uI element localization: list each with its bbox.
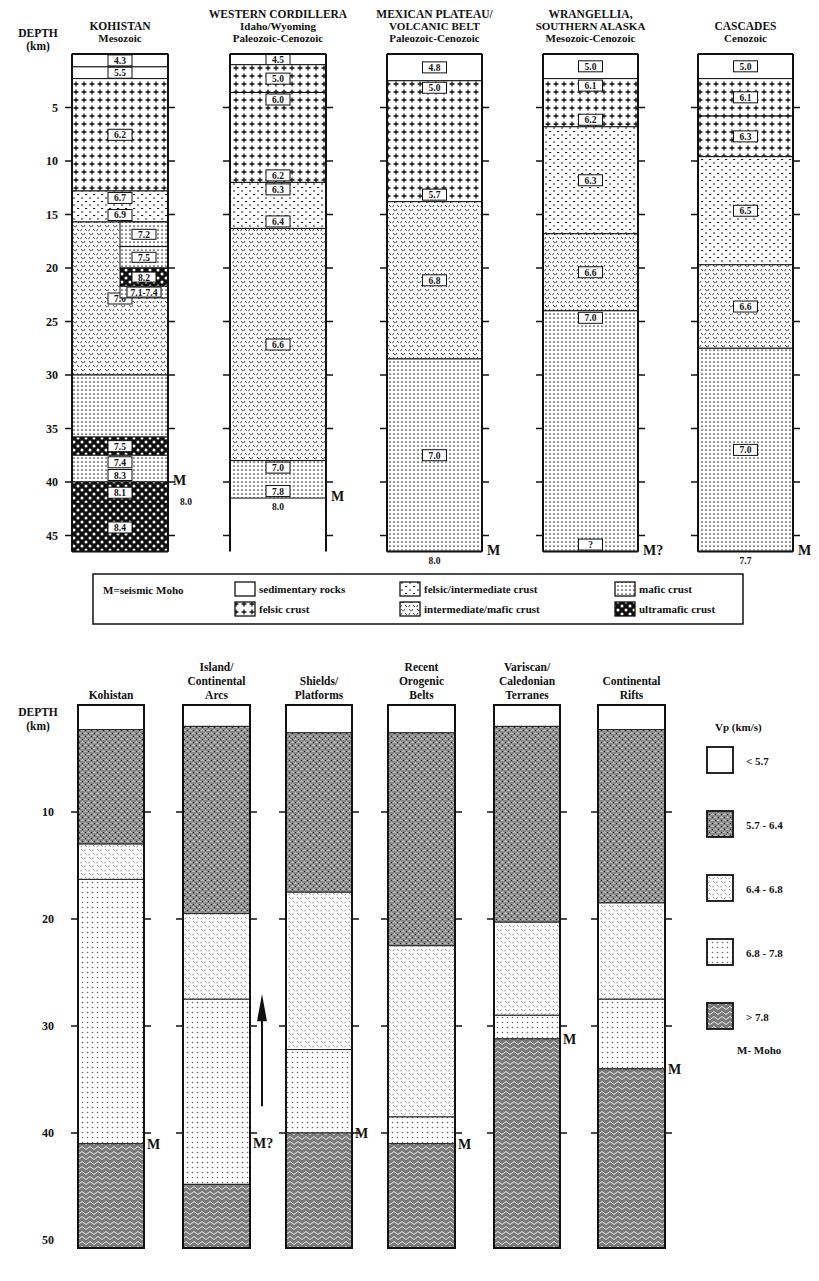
section-column-kohistan: KOHISTANMesozoic4.35.56.26.76.97.07.57.4… bbox=[65, 20, 192, 552]
depth-tick-label: 20 bbox=[46, 261, 58, 275]
moho-marker: M bbox=[487, 543, 500, 558]
depth-axis-unit: (km) bbox=[26, 40, 50, 53]
layer-vp-6.8-7.8 bbox=[286, 1050, 352, 1133]
mantle-velocity: 7.7 bbox=[740, 556, 752, 566]
velocity-value: 6.3 bbox=[272, 185, 284, 195]
moho-marker: M? bbox=[253, 1136, 273, 1151]
legend-label: ultramafic crust bbox=[639, 603, 715, 615]
velocity-value: 6.0 bbox=[272, 95, 284, 105]
legend-swatch-vp bbox=[707, 811, 733, 837]
column-title-line: Belts bbox=[409, 689, 434, 701]
moho-marker: M bbox=[668, 1062, 681, 1077]
section-column-mexican-plateau: MEXICAN PLATEAU/VOLCANIC BELTPaleozoic-C… bbox=[376, 8, 500, 566]
depth-tick-label: 30 bbox=[42, 1019, 54, 1033]
legend-label: < 5.7 bbox=[746, 755, 769, 767]
velocity-value: 6.1 bbox=[740, 93, 752, 103]
depth-tick-label: 40 bbox=[46, 475, 58, 489]
velocity-value: 7.0 bbox=[740, 445, 752, 455]
velocity-value: 6.5 bbox=[740, 206, 752, 216]
legend-swatch-vp bbox=[707, 747, 733, 773]
column-title-line: Continental bbox=[602, 675, 660, 687]
legend-label: 5.7 - 6.4 bbox=[746, 819, 783, 831]
layer-vp-5.7-6.4 bbox=[388, 733, 455, 946]
layer-felsic bbox=[387, 81, 482, 202]
layer-vp-<5.7 bbox=[286, 705, 352, 733]
column-title-line: Caledonian bbox=[499, 675, 556, 687]
velocity-column-recent-orogenic-belts: RecentOrogenicBeltsM bbox=[381, 661, 471, 1248]
mantle-velocity: 8.0 bbox=[429, 556, 441, 566]
velocity-column-shields-platforms: Shields/PlatformsM bbox=[279, 675, 368, 1248]
legend-swatch-felsic-intermediate bbox=[400, 582, 420, 596]
velocity-value: 4.8 bbox=[429, 63, 441, 73]
velocity-value: 6.3 bbox=[585, 176, 597, 186]
layer-vp-<5.7 bbox=[598, 705, 665, 730]
column-title-line: Rifts bbox=[620, 689, 644, 701]
layer-vp->7.8 bbox=[388, 1144, 455, 1248]
velocity-value: 8.1 bbox=[114, 488, 126, 498]
column-title-line: Recent bbox=[405, 661, 439, 673]
top-panel-crustal-sections: DEPTH(km)51015202530354045KOHISTANMesozo… bbox=[18, 8, 811, 566]
velocity-value: 4.3 bbox=[114, 56, 126, 66]
legend-label: felsic crust bbox=[259, 603, 310, 615]
mantle-velocity: 8.0 bbox=[272, 502, 284, 512]
velocity-value: 6.8 bbox=[429, 276, 441, 286]
depth-tick-label: 20 bbox=[42, 912, 54, 926]
velocity-value: 7.4 bbox=[114, 458, 126, 468]
layer-vp-6.8-7.8 bbox=[388, 1117, 455, 1144]
velocity-value: 6.6 bbox=[585, 268, 597, 278]
velocity-value: 6.6 bbox=[272, 340, 284, 350]
depth-tick-label: 10 bbox=[46, 154, 58, 168]
column-title-line: Variscan/ bbox=[504, 661, 551, 673]
section-column-cascades: CASCADESCenozoic5.06.16.36.56.67.0M7.7 bbox=[691, 20, 811, 566]
moho-marker: M bbox=[173, 473, 186, 488]
column-title: WESTERN CORDILLERA bbox=[209, 8, 348, 20]
column-title-line: Terranes bbox=[505, 689, 549, 701]
moho-marker: M bbox=[563, 1032, 576, 1047]
bottom-panel-legend: Vp (km/s)< 5.75.7 - 6.46.4 - 6.86.8 - 7.… bbox=[707, 721, 783, 1056]
column-subtitle2: Paleozoic-Cenozoic bbox=[233, 32, 324, 44]
legend-label: > 7.8 bbox=[746, 1011, 769, 1023]
velocity-value: 7.0 bbox=[429, 451, 441, 461]
velocity-value: 7.2 bbox=[138, 230, 150, 240]
legend-swatch-vp bbox=[707, 1003, 733, 1029]
column-title-line: Kohistan bbox=[89, 689, 134, 701]
velocity-value: 6.7 bbox=[114, 193, 126, 203]
layer-vp-6.4-6.8 bbox=[78, 844, 144, 879]
top-panel-legend: M=seismic Mohosedimentary rocksfelsic cr… bbox=[93, 574, 743, 624]
depth-tick-label: 10 bbox=[42, 805, 54, 819]
depth-tick-label: 15 bbox=[46, 208, 58, 222]
velocity-value: 6.2 bbox=[585, 115, 597, 125]
layer-vp-<5.7 bbox=[183, 705, 250, 726]
velocity-value: 7.5 bbox=[138, 253, 150, 263]
velocity-column-kohistan: KohistanM bbox=[71, 689, 160, 1248]
column-subtitle2: Mesozoic-Cenozoic bbox=[546, 32, 636, 44]
layer-mafic bbox=[72, 375, 168, 437]
column-title-line: Platforms bbox=[295, 689, 344, 701]
column-title-line: Orogenic bbox=[399, 675, 444, 688]
velocity-value: 5.0 bbox=[585, 62, 597, 72]
depth-axis-label: DEPTH bbox=[18, 706, 58, 718]
moho-marker: M? bbox=[643, 543, 663, 558]
moho-marker: M bbox=[798, 543, 811, 558]
legend-swatch-ultramafic bbox=[615, 602, 635, 616]
layer-vp-<5.7 bbox=[494, 705, 560, 726]
crustal-velocity-columns-figure: DEPTH(km)51015202530354045KOHISTANMesozo… bbox=[0, 0, 819, 1281]
velocity-value: 7.0 bbox=[272, 463, 284, 473]
depth-axis-label: DEPTH bbox=[18, 27, 58, 39]
layer-vp->7.8 bbox=[183, 1184, 250, 1248]
layer-vp-<5.7 bbox=[388, 705, 455, 733]
column-title: KOHISTAN bbox=[89, 20, 151, 32]
arrow-up-icon bbox=[257, 994, 267, 1021]
layer-vp-6.8-7.8 bbox=[78, 879, 144, 1143]
velocity-value: 5.0 bbox=[272, 74, 284, 84]
layer-vp-5.7-6.4 bbox=[78, 730, 144, 844]
column-title-line: Shields/ bbox=[300, 675, 339, 687]
layer-vp-5.7-6.4 bbox=[598, 730, 665, 903]
layer-felsic bbox=[230, 93, 326, 183]
velocity-value: ? bbox=[588, 540, 593, 550]
layer-vp-5.7-6.4 bbox=[183, 726, 250, 913]
velocity-value: 5.7 bbox=[429, 190, 441, 200]
column-subtitle: Mesozoic bbox=[98, 32, 141, 44]
depth-axis-unit: (km) bbox=[26, 720, 50, 733]
velocity-value: 6.4 bbox=[272, 217, 284, 227]
